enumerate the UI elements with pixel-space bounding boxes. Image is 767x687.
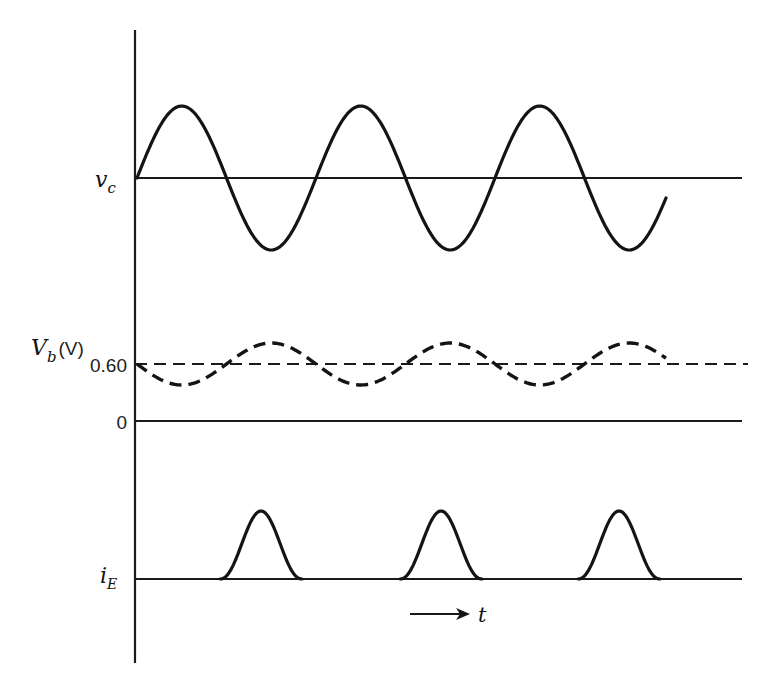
zero-tick-label: 0 <box>116 412 127 433</box>
ie-pulses <box>220 511 660 579</box>
waveform-diagram: vc Vb(V) 0.60 0 iE t <box>0 0 767 687</box>
ie-label: iE <box>100 563 117 592</box>
vb-level-tick-label: 0.60 <box>90 355 127 376</box>
vc-label: vc <box>95 167 116 197</box>
vb-axis-label: Vb(V) <box>31 335 84 366</box>
time-label: t <box>478 603 487 627</box>
